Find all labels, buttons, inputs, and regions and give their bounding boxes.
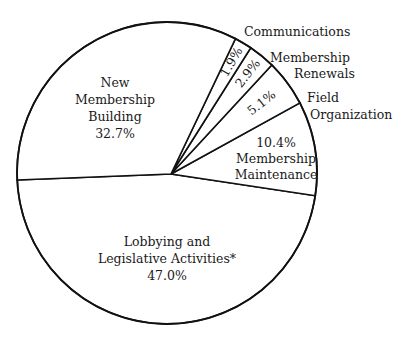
label-line: Organization <box>310 107 392 122</box>
pie-chart: New Membership Building 32.7% Lobbying a… <box>0 0 398 340</box>
label-line: Maintenance <box>235 167 318 182</box>
label-line: Membership <box>75 92 155 107</box>
label-line: Membership <box>236 151 316 166</box>
label-line: Renewals <box>294 66 355 81</box>
value-label: 32.7% <box>95 126 135 141</box>
label-line: Field <box>307 90 339 105</box>
label-line: Legislative Activities* <box>98 251 237 266</box>
value-label: 47.0% <box>147 268 187 283</box>
label-line: Building <box>88 109 141 124</box>
value-label: 10.4% <box>256 135 296 150</box>
label-line: New <box>100 75 129 90</box>
label-line: Membership <box>270 50 350 65</box>
label-line: Lobbying and <box>124 234 210 249</box>
label-line: Communications <box>244 24 350 39</box>
